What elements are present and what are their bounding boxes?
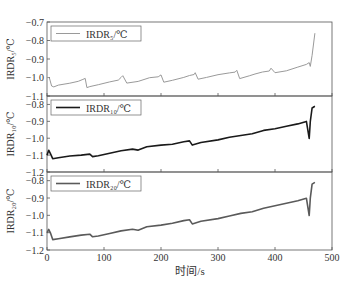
legend-label: IRDR₅/℃ <box>86 29 127 40</box>
x-tick-label: 300 <box>211 252 226 263</box>
x-axis: 0100200300400500 <box>45 252 340 263</box>
y-tick-label: −0.8 <box>26 175 44 186</box>
x-tick-label: 200 <box>154 252 169 263</box>
legend-label: IRDR₁₀/℃ <box>86 103 131 114</box>
y-tick-label: −0.9 <box>26 193 44 204</box>
y-tick-label: −0.9 <box>26 54 44 65</box>
stacked-line-chart: −0.7−0.8−0.9−1.0−1.1IRDR₅/℃IRDR₅/℃−0.8−0… <box>0 0 353 290</box>
y-tick-label: −1.2 <box>26 245 44 256</box>
y-tick-label: −0.8 <box>26 35 44 46</box>
x-axis-label: 时间/s <box>175 265 204 277</box>
legend: IRDR₅/℃ <box>51 26 141 41</box>
x-tick-label: 500 <box>325 252 340 263</box>
y-tick-label: −0.9 <box>26 116 44 127</box>
y-axis-label: IRDR₂₀/℃ <box>5 189 16 234</box>
y-tick-label: −1.0 <box>26 72 44 83</box>
y-tick-label: −0.7 <box>26 17 44 28</box>
x-tick-label: 0 <box>45 252 50 263</box>
panel-1: −0.7−0.8−0.9−1.0−1.1IRDR₅/℃IRDR₅/℃ <box>5 17 332 102</box>
panel-3: −0.8−0.9−1.0−1.1−1.2IRDR₂₀/℃IRDR₂₀/℃ <box>5 172 332 256</box>
legend-label: IRDR₂₀/℃ <box>86 179 131 190</box>
data-series-line <box>47 33 315 87</box>
y-tick-label: −1.0 <box>26 133 44 144</box>
chart-panels: −0.7−0.8−0.9−1.0−1.1IRDR₅/℃IRDR₅/℃−0.8−0… <box>5 17 332 256</box>
y-tick-label: −1.1 <box>26 227 44 238</box>
legend: IRDR₂₀/℃ <box>51 176 141 191</box>
legend: IRDR₁₀/℃ <box>51 100 141 115</box>
y-axis-label: IRDR₁₀/℃ <box>5 112 16 157</box>
chart-canvas: −0.7−0.8−0.9−1.0−1.1IRDR₅/℃IRDR₅/℃−0.8−0… <box>0 0 353 290</box>
y-axis-label: IRDR₅/℃ <box>5 38 16 79</box>
y-tick-label: −0.8 <box>26 99 44 110</box>
x-tick-label: 100 <box>97 252 112 263</box>
x-tick-label: 400 <box>268 252 283 263</box>
y-tick-label: −1.1 <box>26 150 44 161</box>
y-tick-label: −1.0 <box>26 210 44 221</box>
panel-2: −0.8−0.9−1.0−1.1−1.2IRDR₁₀/℃IRDR₁₀/℃ <box>5 96 332 178</box>
